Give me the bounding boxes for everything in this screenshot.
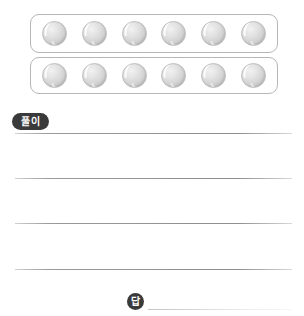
ball-icon [122,63,147,88]
ball-icon [161,21,186,46]
worksheet-page: 풀이 답 [0,0,304,316]
ball-tray-row-2 [30,57,278,94]
clipped-header-text [38,0,218,4]
answer-write-line[interactable] [148,309,292,310]
ball-tray-row-1 [30,14,278,53]
solution-section-badge: 풀이 [12,113,49,130]
ball-icon [241,63,266,88]
solution-write-line[interactable] [15,133,292,134]
answer-section-badge: 답 [127,293,144,310]
ball-icon [82,63,107,88]
ball-icon [201,21,226,46]
ball-icon [201,63,226,88]
ball-icon [122,21,147,46]
ball-icon [161,63,186,88]
ball-icon [241,21,266,46]
ball-icon [42,63,67,88]
solution-write-line[interactable] [15,269,292,270]
ball-icon [82,21,107,46]
solution-write-line[interactable] [15,223,292,224]
solution-write-line[interactable] [15,178,292,179]
ball-icon [42,21,67,46]
